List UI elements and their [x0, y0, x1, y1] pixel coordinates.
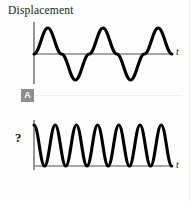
x-axis-label-t-b: t: [176, 159, 179, 170]
panel-a: Displacement t A: [0, 0, 190, 97]
plot-a-sine-wave: [0, 0, 190, 97]
panel-b: t B: [0, 104, 190, 201]
rectified-sine-curve-b: [34, 125, 172, 166]
unknown-quantity-label: ?: [15, 130, 22, 146]
panel-badge-a: A: [21, 89, 34, 102]
x-axis-label-t-a: t: [176, 46, 179, 57]
plot-b-rectified-wave: [0, 104, 190, 201]
waveform-figure: Displacement t A t B ?: [0, 0, 190, 201]
divider-a: [34, 95, 182, 96]
